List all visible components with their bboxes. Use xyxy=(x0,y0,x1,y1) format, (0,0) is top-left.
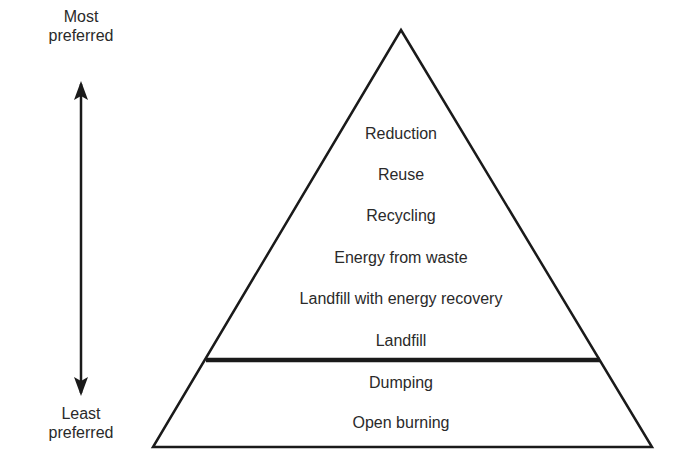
most-preferred-line-2: preferred xyxy=(21,26,141,45)
tier-recycling: Recycling xyxy=(59,206,684,226)
tier-reduction: Reduction xyxy=(59,124,684,144)
most-preferred-line-1: Most xyxy=(21,7,141,26)
tier-dumping: Dumping xyxy=(59,373,684,393)
tier-landfill-energy-recovery: Landfill with energy recovery xyxy=(59,289,684,309)
tier-reuse: Reuse xyxy=(59,165,684,185)
most-preferred-label: Most preferred xyxy=(21,7,141,45)
tier-landfill: Landfill xyxy=(59,331,684,351)
tier-open-burning: Open burning xyxy=(59,413,684,433)
tier-energy-from-waste: Energy from waste xyxy=(59,248,684,268)
